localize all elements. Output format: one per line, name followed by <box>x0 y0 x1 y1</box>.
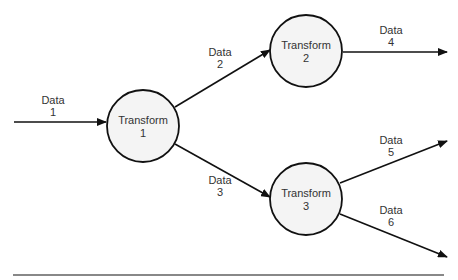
node-label: Transform <box>281 187 331 199</box>
edge-label-4: Data 4 <box>379 24 403 48</box>
svg-text:Data: Data <box>379 134 403 146</box>
svg-text:Data: Data <box>379 204 403 216</box>
svg-text:2: 2 <box>217 58 223 70</box>
svg-text:5: 5 <box>388 146 394 158</box>
node-number: 1 <box>140 127 146 139</box>
node-transform-2: Transform 2 <box>270 15 342 87</box>
node-number: 2 <box>303 52 309 64</box>
svg-text:Data: Data <box>208 46 232 58</box>
node-transform-1: Transform 1 <box>107 90 179 162</box>
edge-label-6: Data 6 <box>379 204 403 228</box>
svg-text:1: 1 <box>50 106 56 118</box>
svg-text:Data: Data <box>208 174 232 186</box>
svg-text:3: 3 <box>217 186 223 198</box>
edge-label-2: Data 2 <box>208 46 232 70</box>
node-label: Transform <box>118 114 168 126</box>
svg-text:4: 4 <box>388 36 394 48</box>
svg-text:Data: Data <box>41 94 65 106</box>
edge-label-3: Data 3 <box>208 174 232 198</box>
data-flow-diagram: Transform 1 Transform 2 Transform 3 Data… <box>0 0 458 280</box>
node-transform-3: Transform 3 <box>270 163 342 235</box>
node-label: Transform <box>281 39 331 51</box>
node-number: 3 <box>303 200 309 212</box>
svg-text:6: 6 <box>388 216 394 228</box>
edge-label-5: Data 5 <box>379 134 403 158</box>
svg-text:Data: Data <box>379 24 403 36</box>
edge-label-1: Data 1 <box>41 94 65 118</box>
